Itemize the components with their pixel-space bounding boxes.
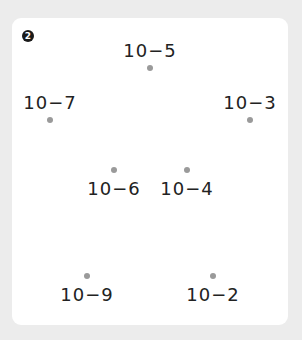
dot-icon[interactable]	[210, 273, 216, 279]
point-label: 10−5	[110, 41, 190, 61]
point-label: 10−9	[47, 285, 127, 305]
point-label: 10−6	[74, 179, 154, 199]
dot-icon[interactable]	[84, 273, 90, 279]
dot-icon[interactable]	[111, 167, 117, 173]
exercise-card: 2 10−5 10−7 10−3 10−6 10−4 10−9 10−2	[12, 18, 288, 325]
dot-icon[interactable]	[247, 117, 253, 123]
point-label: 10−3	[210, 93, 290, 113]
point-label: 10−4	[147, 179, 227, 199]
dot-icon[interactable]	[184, 167, 190, 173]
point-label: 10−7	[10, 93, 90, 113]
dot-icon[interactable]	[147, 65, 153, 71]
problem-number-badge: 2	[22, 30, 34, 42]
point-label: 10−2	[173, 285, 253, 305]
dot-icon[interactable]	[47, 117, 53, 123]
